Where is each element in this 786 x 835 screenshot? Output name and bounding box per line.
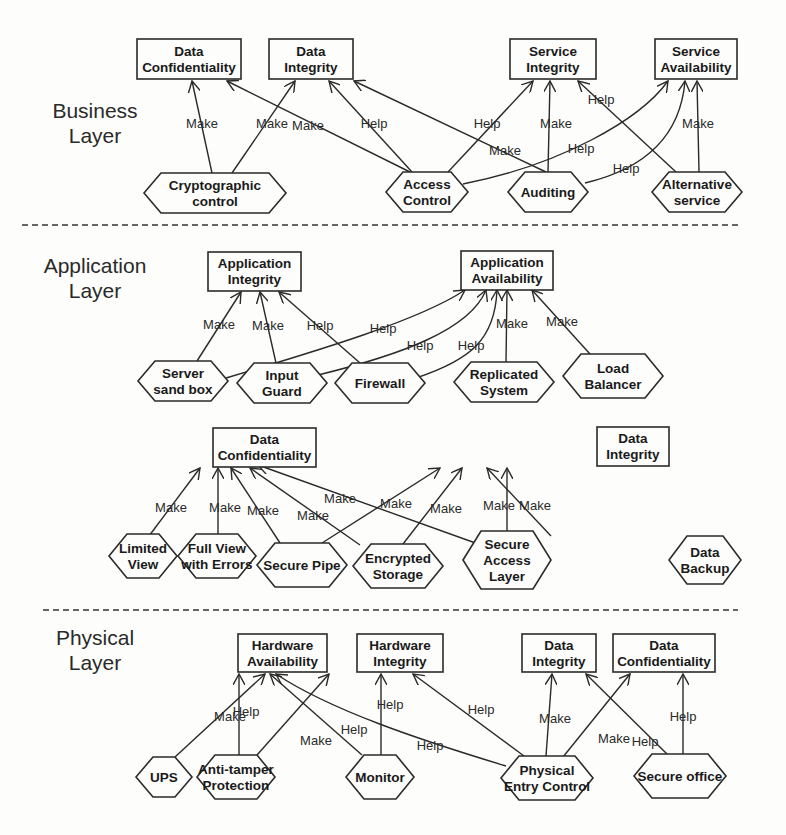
edge-b_audit-to-b_si: Make bbox=[540, 81, 572, 172]
edge-p_entry-to-p_di: Make bbox=[539, 674, 571, 756]
edge-a_input-to-a_ai: Make bbox=[252, 292, 284, 363]
edge-label: Make bbox=[519, 498, 551, 513]
goal-node-a_aa: ApplicationAvailability bbox=[461, 251, 553, 290]
goal-node-p_di: DataIntegrity bbox=[522, 634, 596, 672]
layer-labels: BusinessLayerApplicationLayerPhysicalLay… bbox=[44, 99, 147, 674]
edge-label: Make bbox=[430, 501, 462, 516]
edge-label: Make bbox=[540, 116, 572, 131]
goal-label: ApplicationIntegrity bbox=[218, 256, 292, 287]
edge-a_lb-to-a_aa: Make bbox=[532, 290, 590, 354]
goal-node-a_di: DataIntegrity bbox=[597, 427, 669, 466]
control-label: InputGuard bbox=[262, 368, 302, 399]
edge-p_antitamper-to-p_ha: Help bbox=[233, 674, 260, 755]
edge-label: Help bbox=[377, 697, 404, 712]
edge-b_access-to-b_di: Help bbox=[329, 81, 412, 172]
edge-label: Help bbox=[568, 141, 595, 156]
edge-a_sal-to-a_di: Make bbox=[483, 468, 515, 531]
edge-b_access-to-b_si: Help bbox=[448, 81, 533, 172]
goal-node-b_si: ServiceIntegrity bbox=[510, 39, 596, 79]
edge-a_sandbox-to-a_ai: Make bbox=[197, 292, 241, 361]
nodes: DataConfidentialityDataIntegrityServiceI… bbox=[109, 39, 742, 800]
control-node-a_fw: Firewall bbox=[335, 363, 425, 403]
edge-label: Help bbox=[407, 338, 434, 353]
control-label: Secure office bbox=[638, 769, 723, 784]
control-node-b_access: AccessControl bbox=[386, 172, 468, 212]
edge-p_antitamper-to-p_hi: Make bbox=[257, 674, 332, 755]
edge-label: Help bbox=[361, 116, 388, 131]
edge-label: Make bbox=[300, 733, 332, 748]
edge-label: Help bbox=[233, 704, 260, 719]
control-node-a_input: InputGuard bbox=[237, 363, 327, 403]
control-node-a_encstore: EncryptedStorage bbox=[353, 544, 443, 588]
edge-label: Make bbox=[539, 711, 571, 726]
edge-a_fullview-to-a_dc: Make bbox=[209, 468, 241, 534]
edge-p_entry-to-p_ha: Help bbox=[276, 674, 506, 766]
edge-label: Make bbox=[380, 496, 412, 511]
goal-label: ApplicationAvailability bbox=[470, 255, 544, 286]
edge-label: Help bbox=[458, 338, 485, 353]
control-node-a_fullview: Full Viewwith Errors bbox=[178, 534, 256, 578]
edge-label: Make bbox=[256, 116, 288, 131]
control-node-b_crypto: Cryptographiccontrol bbox=[144, 173, 286, 213]
control-node-b_audit: Auditing bbox=[508, 172, 588, 212]
control-node-p_office: Secure office bbox=[634, 754, 726, 798]
edge-label: Help bbox=[341, 722, 368, 737]
edge-label: Make bbox=[247, 503, 279, 518]
control-node-a_repl: ReplicatedSystem bbox=[454, 362, 554, 402]
control-label: ReplicatedSystem bbox=[470, 367, 538, 398]
control-label: AccessControl bbox=[403, 177, 451, 208]
control-label: Firewall bbox=[355, 376, 405, 391]
edge-label: Help bbox=[417, 738, 444, 753]
edge-label: Help bbox=[632, 734, 659, 749]
edge-label: Make bbox=[496, 316, 528, 331]
layer-label-physical: PhysicalLayer bbox=[56, 626, 134, 674]
control-node-a_lb: LoadBalancer bbox=[563, 354, 663, 398]
edge-label: Make bbox=[186, 116, 218, 131]
edge-label: Help bbox=[588, 92, 615, 107]
control-node-b_alt: Alternativeservice bbox=[652, 172, 742, 212]
edge-a_fw-to-a_ai: Help bbox=[279, 292, 360, 363]
edge-a_repl-to-a_aa: Make bbox=[496, 290, 528, 362]
edge-label: Make bbox=[203, 317, 235, 332]
goal-node-p_ha: HardwareAvailability bbox=[238, 634, 327, 672]
edge-label: Make bbox=[252, 318, 284, 333]
goal-label: HardwareAvailability bbox=[247, 638, 318, 669]
edge-p_office-to-p_dc: Help bbox=[670, 674, 697, 754]
goal-node-b_dc: DataConfidentiality bbox=[137, 39, 241, 79]
edge-b_crypto-to-b_di: Make bbox=[232, 81, 295, 173]
edge-p_monitor-to-p_hi: Help bbox=[377, 674, 404, 755]
control-node-a_limited: LimitedView bbox=[109, 534, 177, 578]
arrow-icon bbox=[276, 674, 506, 766]
control-label: UPS bbox=[150, 770, 178, 785]
control-label: Auditing bbox=[521, 185, 576, 200]
control-node-a_sal: SecureAccessLayer bbox=[463, 531, 551, 589]
edge-label: Help bbox=[307, 318, 334, 333]
edge-label: Make bbox=[292, 118, 324, 133]
control-label: Anti-tamperProtection bbox=[198, 762, 274, 793]
layer-label-application: ApplicationLayer bbox=[44, 254, 147, 302]
control-node-a_backup: DataBackup bbox=[669, 536, 741, 584]
goal-node-p_dc: DataConfidentiality bbox=[613, 634, 715, 672]
control-label: EncryptedStorage bbox=[365, 551, 431, 582]
edge-label: Help bbox=[474, 116, 501, 131]
edge-label: Help bbox=[468, 702, 495, 717]
edge-label: Make bbox=[297, 508, 329, 523]
edge-label: Help bbox=[370, 321, 397, 336]
edge-label: Make bbox=[155, 500, 187, 515]
edge-label: Make bbox=[682, 116, 714, 131]
goal-node-a_ai: ApplicationIntegrity bbox=[208, 252, 301, 291]
edge-label: Make bbox=[209, 500, 241, 515]
control-node-p_antitamper: Anti-tamperProtection bbox=[197, 755, 275, 799]
edge-b_crypto-to-b_dc: Make bbox=[186, 81, 218, 173]
goal-node-b_di: DataIntegrity bbox=[269, 39, 353, 79]
edge-a_limited-to-a_dc: Make bbox=[149, 468, 200, 536]
control-label: Full Viewwith Errors bbox=[180, 541, 252, 572]
control-node-p_entry: PhysicalEntry Control bbox=[501, 756, 593, 800]
control-node-a_sandbox: Serversand box bbox=[138, 361, 228, 401]
edge-label: Make bbox=[546, 314, 578, 329]
edge-p_entry-to-p_dc: Make bbox=[563, 674, 630, 757]
control-label: Secure Pipe bbox=[263, 558, 341, 573]
control-label: SecureAccessLayer bbox=[483, 537, 530, 584]
control-node-p_monitor: Monitor bbox=[346, 755, 414, 799]
control-node-p_ups: UPS bbox=[136, 757, 192, 797]
